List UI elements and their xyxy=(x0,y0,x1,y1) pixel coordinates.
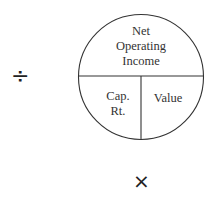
cap-rate-line-2: Rt. xyxy=(96,104,140,119)
multiply-icon: × xyxy=(133,170,150,192)
net-operating-income-label: Net Operating Income xyxy=(101,24,181,69)
divide-icon: ÷ xyxy=(11,64,29,88)
cap-rate-label: Cap. Rt. xyxy=(96,89,140,119)
noi-line-1: Net xyxy=(101,24,181,39)
value-label: Value xyxy=(144,91,192,106)
cap-rate-line-1: Cap. xyxy=(96,89,140,104)
noi-line-2: Operating xyxy=(101,39,181,54)
noi-line-3: Income xyxy=(101,54,181,69)
